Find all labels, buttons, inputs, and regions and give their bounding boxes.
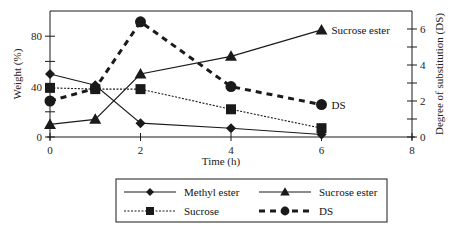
y2-tick-label: 4 xyxy=(420,59,426,71)
x-tick-label: 0 xyxy=(47,144,53,156)
y-tick-label: 80 xyxy=(31,30,43,42)
legend: Methyl esterSucrose esterSucroseDS xyxy=(116,179,387,222)
series-annotation: DS xyxy=(332,99,346,111)
series-line xyxy=(50,30,322,125)
sucrose-ester-chart: 02468040800246Time (h)Weight (%)Degree o… xyxy=(0,0,452,236)
circle-marker xyxy=(316,99,327,110)
series-annotation: Sucrose ester xyxy=(332,24,391,36)
y-tick-label: 0 xyxy=(37,131,43,143)
square-marker xyxy=(45,83,55,93)
y2-tick-label: 6 xyxy=(420,23,426,35)
circle-marker xyxy=(281,207,290,216)
x-tick-label: 6 xyxy=(319,144,325,156)
y2-tick-label: 0 xyxy=(420,131,426,143)
square-marker xyxy=(146,207,154,215)
triangle-marker xyxy=(316,24,328,35)
circle-marker xyxy=(90,83,101,94)
x-tick-label: 8 xyxy=(409,144,415,156)
y-tick-label: 40 xyxy=(31,81,43,93)
circle-marker xyxy=(45,96,56,107)
x-tick-label: 2 xyxy=(138,144,144,156)
series-sucrose-ester xyxy=(44,24,328,129)
series-methyl-ester xyxy=(45,69,327,139)
series-layer xyxy=(44,16,328,139)
diamond-marker xyxy=(226,123,236,133)
series-line xyxy=(50,74,322,134)
square-marker xyxy=(226,104,236,114)
y2-axis-title: Degree of substitution (DS) xyxy=(433,13,446,135)
y2-tick-label: 2 xyxy=(420,95,426,107)
circle-marker xyxy=(135,16,146,27)
legend-label: Sucrose xyxy=(184,205,219,217)
legend-label: Sucrose ester xyxy=(319,186,378,198)
legend-label: DS xyxy=(319,205,333,217)
legend-label: Methyl ester xyxy=(184,186,240,198)
y-axis-title: Weight (%) xyxy=(11,48,24,99)
circle-marker xyxy=(226,81,237,92)
x-axis-title: Time (h) xyxy=(202,155,241,168)
square-marker xyxy=(136,84,146,94)
series-ds xyxy=(45,16,328,110)
annotations: Sucrose esterDS xyxy=(332,24,391,111)
diamond-marker xyxy=(45,69,55,79)
square-marker xyxy=(317,123,327,133)
